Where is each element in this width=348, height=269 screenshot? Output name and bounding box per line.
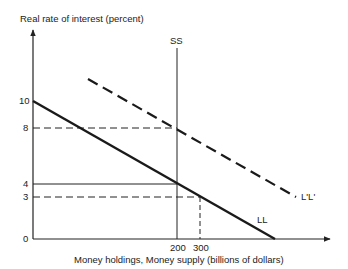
y-tick-3: 3 <box>23 191 28 202</box>
x-tick-200: 200 <box>170 242 186 253</box>
y-tick-8: 8 <box>23 122 28 133</box>
ll-label: LL <box>257 214 268 225</box>
x-axis-label: Money holdings, Money supply (billions o… <box>74 254 284 265</box>
ll-curve <box>33 101 275 239</box>
x-tick-300: 300 <box>193 242 209 253</box>
y-tick-10: 10 <box>19 95 30 106</box>
ss-label: SS <box>170 35 183 46</box>
y-tick-0: 0 <box>23 233 28 244</box>
money-market-diagram: Real rate of interest (percent) Money ho… <box>0 0 348 269</box>
lplp-curve <box>88 79 296 197</box>
y-tick-4: 4 <box>23 178 28 189</box>
y-axis-label: Real rate of interest (percent) <box>20 13 144 24</box>
lplp-label: L'L' <box>301 191 315 202</box>
